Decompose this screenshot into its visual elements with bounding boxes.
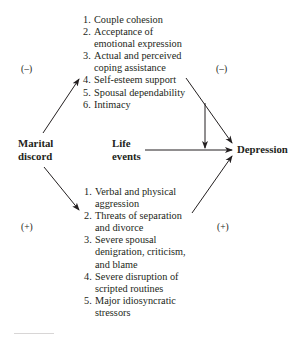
sign-lower-right: (+)	[217, 222, 229, 232]
sign-upper-right: (–)	[216, 64, 227, 74]
arrow-upper-to-depression	[186, 78, 232, 143]
node-marital-discord: Marital discord	[18, 137, 53, 162]
list-item-continuation: and divorce	[84, 222, 186, 234]
list-item: 5.Major idiosyncratic	[84, 295, 186, 307]
sign-upper-left: (–)	[21, 64, 32, 74]
list-item: 4.Severe disruption of	[84, 271, 186, 283]
upper-mediator-list: 1.Couple cohesion 2.Acceptance of emotio…	[83, 14, 185, 111]
arrow-discord-to-upper	[43, 79, 79, 133]
node-label-line: Life	[112, 137, 141, 150]
list-item: 2.Threats of separation	[84, 210, 186, 222]
node-depression: Depression	[237, 143, 288, 156]
list-item: 5.Spousal dependability	[83, 87, 185, 99]
list-item-continuation: denigration, criticism,	[84, 246, 186, 258]
node-label-line: discord	[18, 150, 53, 163]
sign-lower-left: (+)	[21, 222, 33, 232]
caption-cutoff-edge	[14, 333, 54, 334]
list-item: 6.Intimacy	[83, 99, 185, 111]
list-item-continuation: stressors	[84, 307, 186, 319]
lower-mediator-list: 1.Verbal and physical aggression 2.Threa…	[84, 186, 186, 319]
list-item-continuation: aggression	[84, 198, 186, 210]
list-item-continuation: emotional expression	[83, 38, 185, 50]
list-item-continuation: scripted routines	[84, 283, 186, 295]
list-item: 1.Couple cohesion	[83, 14, 185, 26]
list-item: 2.Acceptance of	[83, 26, 185, 38]
arrow-lower-to-depression	[192, 156, 232, 213]
node-life-events: Life events	[112, 137, 141, 162]
node-label-line: Marital	[18, 137, 53, 150]
arrow-discord-to-lower	[44, 167, 79, 210]
list-item: 3.Severe spousal	[84, 234, 186, 246]
list-item: 4.Self-esteem support	[83, 74, 185, 86]
list-item: 3.Actual and perceived	[83, 50, 185, 62]
list-item-continuation: and blame	[84, 259, 186, 271]
node-label-line: events	[112, 150, 141, 163]
list-item-continuation: coping assistance	[83, 62, 185, 74]
list-item: 1.Verbal and physical	[84, 186, 186, 198]
